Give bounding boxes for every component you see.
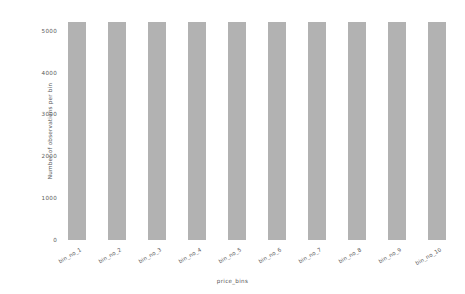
bar [428, 22, 446, 240]
x-axis-title: price_bins [0, 278, 465, 284]
y-axis-tick-label: 5000 [23, 28, 57, 34]
y-axis-tick-label: 0 [23, 237, 57, 243]
bar [228, 22, 246, 240]
x-axis-tick-label: bin_no_7 [294, 246, 323, 266]
bar [348, 22, 366, 240]
bar [108, 22, 126, 240]
y-axis-tick-label: 2000 [23, 153, 57, 159]
plot-area [57, 16, 457, 240]
x-axis-tick-label: bin_no_6 [254, 246, 283, 266]
y-axis-tick-label: 3000 [23, 111, 57, 117]
x-axis-tick-labels: bin_no_1bin_no_2bin_no_3bin_no_4bin_no_5… [57, 240, 457, 280]
bar [68, 22, 86, 240]
x-axis-tick-label: bin_no_5 [214, 246, 243, 266]
y-axis-tick-labels: 010002000300040005000 [0, 0, 57, 294]
x-axis-tick-label: bin_no_1 [54, 246, 83, 266]
x-axis-tick-label: bin_no_3 [134, 246, 163, 266]
x-axis-tick-label: bin_no_4 [174, 246, 203, 266]
bar [388, 22, 406, 240]
bar-chart-figure: Number of observations per bin 010002000… [0, 0, 465, 294]
x-axis-tick-label: bin_no_8 [334, 246, 363, 266]
x-axis-tick-label: bin_no_10 [414, 246, 443, 266]
y-axis-tick-label: 1000 [23, 195, 57, 201]
x-axis-tick-label: bin_no_9 [374, 246, 403, 266]
x-axis-tick-label: bin_no_2 [94, 246, 123, 266]
bar [188, 22, 206, 240]
y-axis-tick-label: 4000 [23, 70, 57, 76]
bar [308, 22, 326, 240]
bar [268, 22, 286, 240]
bar [148, 22, 166, 240]
